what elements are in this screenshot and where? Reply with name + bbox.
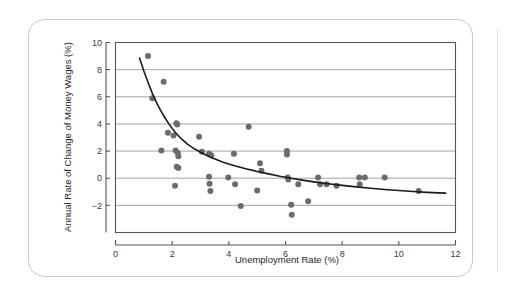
scatter-point (362, 175, 368, 181)
x-tick-label: 12 (450, 249, 460, 259)
data-points (145, 53, 422, 218)
scatter-point (207, 181, 213, 187)
scatter-point (231, 151, 237, 157)
y-tick-label: 10 (92, 38, 102, 48)
scatter-point (225, 175, 231, 181)
y-tick-label: 0 (97, 173, 102, 183)
scatter-point (174, 122, 180, 128)
x-tick-label: 8 (340, 249, 345, 259)
y-tick-label: −2 (92, 201, 102, 211)
y-axis-title: Annual Rate of Change of Money Wages (%) (62, 42, 73, 232)
x-axis-title: Unemployment Rate (%) (235, 254, 339, 265)
scatter-point (289, 212, 295, 218)
phillips-curve-scatter-chart: −20246810 024681012 Unemployment Rate (%… (0, 0, 515, 296)
scatter-point (172, 183, 178, 189)
plot-frame (116, 43, 456, 233)
y-tick-label: 4 (97, 119, 102, 129)
axis-ticks (106, 43, 456, 246)
y-tick-label: 2 (97, 146, 102, 156)
scatter-point (295, 181, 301, 187)
plot-frame-rect (116, 43, 456, 233)
x-tick-label: 0 (113, 249, 118, 259)
fitted-curve (140, 58, 446, 193)
scatter-point (257, 160, 263, 166)
scatter-point (175, 153, 181, 159)
scatter-point (206, 174, 212, 180)
scatter-point (284, 151, 290, 157)
scatter-point (254, 187, 260, 193)
scatter-point (246, 124, 252, 130)
scatter-point (232, 181, 238, 187)
scatter-point (315, 175, 321, 181)
x-tick-label: 10 (394, 249, 404, 259)
fitted-curve-path (140, 58, 446, 193)
scatter-point (356, 175, 362, 181)
figure-root: −20246810 024681012 Unemployment Rate (%… (0, 0, 515, 296)
x-tick-label: 2 (170, 249, 175, 259)
scatter-point (158, 147, 164, 153)
scatter-point (382, 175, 388, 181)
scatter-point (238, 203, 244, 209)
scatter-point (174, 164, 180, 170)
scatter-point (305, 198, 311, 204)
grid-lines (116, 43, 456, 206)
scatter-point (161, 79, 167, 85)
scatter-point (165, 130, 171, 136)
scatter-point (145, 53, 151, 59)
y-tick-label: 6 (97, 92, 102, 102)
scatter-point (196, 134, 202, 140)
scatter-point (207, 188, 213, 194)
x-tick-label: 4 (226, 249, 231, 259)
y-tick-labels: −20246810 (92, 38, 102, 211)
y-tick-label: 8 (97, 65, 102, 75)
scatter-point (288, 202, 294, 208)
